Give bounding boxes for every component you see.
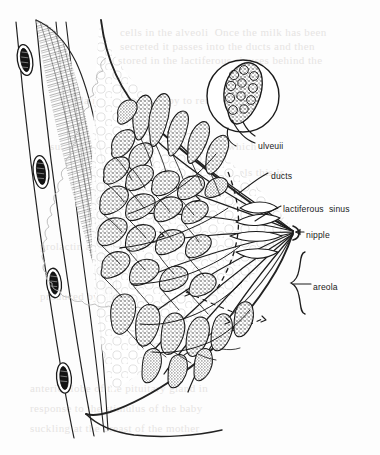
ghost-line: secreted it passes into the ducts and th… — [120, 40, 315, 52]
lobule — [234, 302, 253, 337]
label-nipple: nipple — [306, 230, 330, 240]
label-areola: areola — [313, 282, 338, 292]
ghost-line: response to the stimulus of the baby — [30, 402, 203, 414]
alveolus-inset — [207, 60, 279, 146]
breast-anatomy-figure: cells in the alveoli Once the milk has b… — [0, 0, 380, 455]
ghost-line: cells in the alveoli Once the milk has b… — [120, 26, 327, 38]
lobule — [194, 349, 212, 381]
label-alveoli: ulveuii — [258, 141, 283, 151]
lobule — [211, 314, 232, 351]
rib-1 — [15, 44, 35, 77]
ghost-line: stored in the lactiferous sinuses behind… — [118, 54, 323, 66]
lobule — [142, 349, 161, 383]
label-ducts: ducts — [271, 171, 292, 181]
label-lactiferous-sinus: lactiferous sinus — [283, 204, 350, 214]
areola-brace — [291, 252, 305, 314]
anatomy-diagram-canvas: cells in the alveoli Once the milk has b… — [0, 0, 380, 455]
ghost-line: suckling at the breast of the mother — [30, 422, 200, 434]
